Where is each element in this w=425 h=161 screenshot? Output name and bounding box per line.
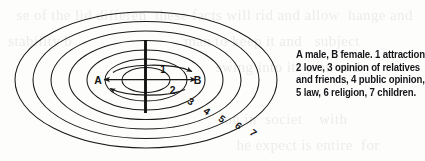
label-7-children: 7 [248,127,260,139]
figure-caption: A male, B female. 1 attraction, 2 love, … [296,49,416,99]
caption-line-2: 2 love, 3 opinion of relatives [296,62,416,75]
caption-line-3: and friends, 4 public opinion, [296,74,416,87]
label-b-female: B [194,74,202,86]
caption-line-1: A male, B female. 1 attraction, [296,49,416,62]
label-3-opinion-relatives: 3 [186,95,197,108]
figure-page: se of the lid differen these facts will … [0,0,425,161]
caption-line-4: 5 law, 6 religion, 7 children. [296,87,416,100]
label-1-attraction: 1 [160,64,166,75]
label-2-love: 2 [170,85,176,96]
label-a-male: A [94,74,102,86]
